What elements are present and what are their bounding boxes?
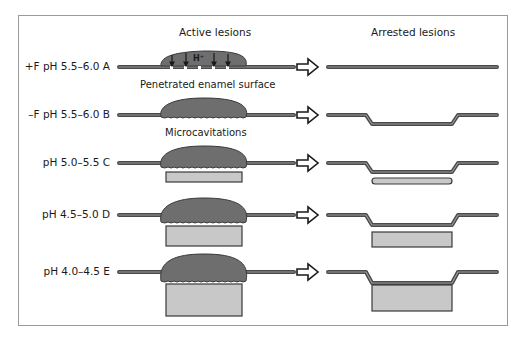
row-b-active bbox=[119, 98, 294, 118]
transition-arrow-icon-c bbox=[297, 155, 318, 171]
row-c-arrested bbox=[328, 163, 497, 184]
row-e-arrested bbox=[328, 272, 497, 311]
row-d-active bbox=[119, 198, 294, 246]
transition-arrow-icon-a bbox=[297, 59, 318, 75]
row-b-arrested bbox=[328, 115, 497, 124]
transition-arrow-icon-b bbox=[297, 107, 318, 123]
hydrogen-ion-label: H⁺ bbox=[193, 54, 204, 63]
row-a-active: H⁺ bbox=[119, 51, 294, 70]
transition-arrow-icon-d bbox=[297, 207, 318, 223]
row-c-active bbox=[119, 146, 294, 182]
transition-arrow-icon-e bbox=[297, 264, 318, 280]
row-d-arrested bbox=[328, 215, 497, 247]
lesion-diagram: H⁺ bbox=[0, 0, 521, 346]
row-e-active bbox=[119, 254, 294, 316]
